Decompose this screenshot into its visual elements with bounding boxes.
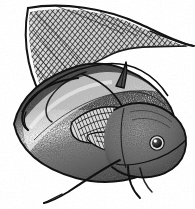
- paper-grain: [0, 0, 195, 209]
- fish-illustration-svg: [0, 0, 195, 209]
- fish-engraving-figure: Catfish engraving illustration: [0, 0, 195, 209]
